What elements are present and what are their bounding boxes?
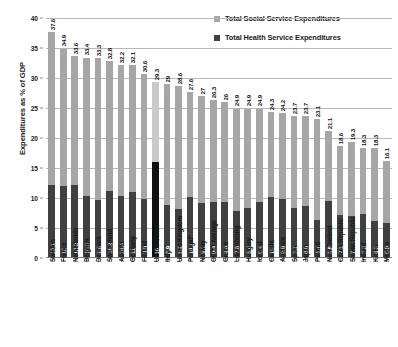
bar-total-value-label: 24.2 (279, 100, 286, 111)
bar-segment-social (337, 146, 344, 215)
bar-segment-social (48, 32, 55, 185)
x-axis-label-cell: Canada (265, 262, 277, 344)
x-axis-label-cell: New Zealand (323, 262, 335, 344)
bar-stack (60, 18, 67, 258)
bar-segment-social (95, 58, 102, 200)
y-axis-tick-mark (40, 228, 43, 229)
bar-segment-social (314, 119, 321, 219)
x-axis-category-label: Germany (129, 236, 136, 262)
bar-column: 24.97.8 (231, 18, 243, 258)
y-axis-tick-label: 25 (18, 105, 38, 112)
bar-segment-social (198, 96, 205, 203)
bar-total-value-label: 32.1 (129, 52, 136, 63)
y-axis-tick-label: 10 (18, 195, 38, 202)
bar-column: 24.29.9 (277, 18, 289, 258)
bar-segment-social (164, 84, 171, 205)
bar-column: 24.310.1 (265, 18, 277, 258)
bar-total-value-label: 29.3 (152, 69, 159, 80)
x-axis-category-label: Finland (141, 241, 148, 262)
bar-column: 32.111 (127, 18, 139, 258)
bar-segment-social (360, 148, 367, 214)
bar-segment-social (152, 82, 159, 162)
bar-column: 23.78.6 (300, 18, 312, 258)
x-axis-category-label: Poland (313, 242, 320, 262)
bar-column: 33.410.3 (81, 18, 93, 258)
y-axis-tick-label: 40 (18, 15, 38, 22)
bar-column: 30.69.8 (138, 18, 150, 258)
bar-segment-social (221, 102, 228, 202)
x-axis-category-label: Netherlands (71, 228, 78, 262)
y-axis-tick-label: 15 (18, 165, 38, 172)
bar-total-value-label: 21.1 (325, 118, 332, 129)
bar-segment-social (106, 61, 113, 191)
x-axis-label-cell: Hungary (242, 262, 254, 344)
x-axis-category-label: Sweden (48, 239, 55, 262)
bar-segment-social (256, 109, 263, 202)
y-axis-tick-mark (40, 138, 43, 139)
x-axis-category-label: Norway (198, 240, 205, 262)
x-axis-category-label: Austria (117, 242, 124, 262)
bar-total-value-label: 18.3 (371, 135, 378, 146)
x-axis-category-label: United Kingdom (175, 216, 182, 262)
y-axis-tick-mark (40, 108, 43, 109)
bar-stack (198, 18, 205, 258)
bar-segment-social (71, 56, 78, 184)
x-axis-category-label: Slovak Republic (348, 216, 355, 262)
bar-total-value-label: 33.6 (71, 43, 78, 54)
bar-column: 32.210.4 (115, 18, 127, 258)
bar-column: 21.19.5 (323, 18, 335, 258)
bar-total-value-label: 24.9 (244, 95, 251, 106)
bar-stack (268, 18, 275, 258)
x-axis-label-cell: Japan (300, 262, 312, 344)
bar-segment-social (129, 65, 136, 192)
x-axis-label-cell: Germany (127, 262, 139, 344)
x-axis-label-cell: Denmark (92, 262, 104, 344)
x-axis-label-cell: Ireland (357, 262, 369, 344)
bar-segment-social (291, 116, 298, 208)
bar-stack (187, 18, 194, 258)
bar-total-value-label: 24.9 (256, 95, 263, 106)
x-axis-label-cell: Austria (115, 262, 127, 344)
x-axis-label-cell: Switzerland (104, 262, 116, 344)
bar-column: 23.16.4 (311, 18, 323, 258)
bar-total-value-label: 23.7 (302, 103, 309, 114)
bar-segment-social (325, 131, 332, 201)
bar-total-value-label: 16.1 (383, 148, 390, 159)
bar-stack (141, 18, 148, 258)
x-axis-label-cell: Spain (288, 262, 300, 344)
bar-column: 32.811.2 (104, 18, 116, 258)
y-axis-tick-mark (40, 48, 43, 49)
y-axis-tick-label: 0 (18, 255, 38, 262)
x-axis-category-label: Iceland (256, 242, 263, 262)
bar-column: 24.99.4 (254, 18, 266, 258)
x-axis-label-cell: Poland (311, 262, 323, 344)
x-axis-category-label: Italy (164, 250, 171, 262)
bar-column: 269.4 (219, 18, 231, 258)
x-axis-category-label: Luxembourg (233, 226, 240, 262)
y-axis-tick-label: 35 (18, 45, 38, 52)
x-axis-label-cell: Mexico (380, 262, 392, 344)
x-axis-label-cell: Greece (219, 262, 231, 344)
bar-stack (244, 18, 251, 258)
x-axis-category-label: Portugal* (187, 236, 194, 262)
bar-column: 298.9 (161, 18, 173, 258)
x-axis-label-cell: Australia (277, 262, 289, 344)
bar-total-value-label: 26 (221, 94, 228, 100)
bar-total-value-label: 29 (164, 76, 171, 82)
x-axis-label-cell: OECD Average (207, 262, 219, 344)
x-axis-labels: SwedenFranceNetherlandsBelgiumDenmarkSwi… (46, 262, 392, 344)
stacked-bar-chart: Total Social Service Expenditures Total … (0, 0, 398, 347)
bar-total-value-label: 26.3 (210, 87, 217, 98)
bar-stack (314, 18, 321, 258)
bar-segment-social (83, 58, 90, 197)
x-axis-category-label: New Zealand (325, 226, 332, 262)
bar-total-value-label: 32.2 (117, 52, 124, 63)
bar-total-value-label: 19.3 (348, 129, 355, 140)
bar-total-value-label: 32.8 (106, 48, 113, 59)
bar-segment-social (175, 86, 182, 208)
x-axis-label-cell: Slovak Republic (346, 262, 358, 344)
bar-segment-social (371, 148, 378, 221)
x-axis-label-cell: Finland (138, 262, 150, 344)
bar-segment-social (233, 109, 240, 212)
y-axis-tick-label: 30 (18, 75, 38, 82)
